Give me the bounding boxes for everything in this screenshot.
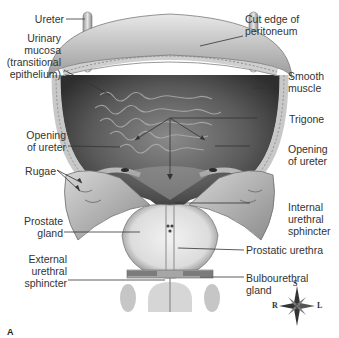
label-bulbourethral-gland: Bulbourethral gland (246, 272, 308, 296)
prostate (122, 204, 218, 278)
label-trigone: Trigone (289, 113, 324, 125)
compass-right: R (272, 300, 278, 312)
compass-left: L (317, 300, 322, 312)
label-smooth-muscle: Smooth muscle (288, 70, 324, 94)
label-external-urethral-sphincter: External urethral sphincter (24, 253, 67, 289)
compass-superior: S (293, 278, 297, 290)
label-internal-urethral-sphincter: Internal urethral sphincter (288, 201, 331, 237)
label-rugae: Rugae (25, 165, 56, 177)
label-cut-edge-of-peritoneum: Cut edge of peritoneum (245, 13, 299, 37)
label-prostate-gland: Prostate gland (24, 215, 63, 239)
label-prostatic-urethra: Prostatic urethra (246, 244, 323, 256)
label-opening-of-ureter-left: Opening of ureter (26, 129, 66, 153)
panel-letter: A (7, 327, 14, 337)
label-urinary-mucosa: Urinary mucosa (transitional epithelium) (7, 32, 61, 80)
bulbourethral-glands-and-penile-bulb (120, 278, 220, 312)
label-opening-of-ureter-right: Opening of ureter (288, 143, 328, 167)
label-ureter: Ureter (35, 13, 64, 25)
